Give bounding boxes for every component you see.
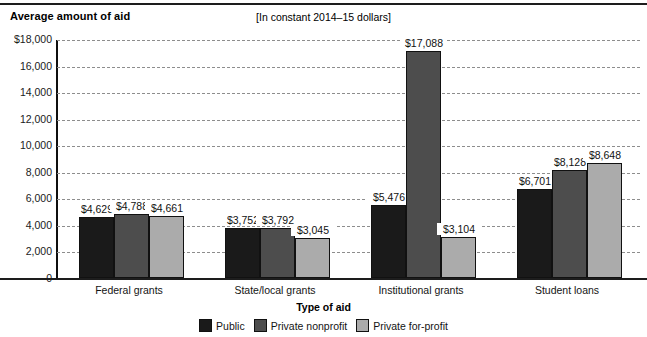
chart-figure: Average amount of aid [In constant 2014–…	[0, 0, 647, 337]
legend-item[interactable]: Public	[199, 319, 245, 332]
plot-area: $4,629$4,788$4,661$3,752$3,792$3,045$5,4…	[56, 40, 640, 278]
y-axis-tick-label: 10,000	[0, 139, 52, 151]
x-axis-category-label: Federal grants	[56, 284, 202, 296]
bar[interactable]	[79, 217, 114, 278]
x-axis-category-label: Student loans	[494, 284, 640, 296]
bar[interactable]	[587, 163, 622, 278]
bar-value-label: $3,045	[291, 224, 335, 236]
bottom-divider-rule	[0, 278, 647, 280]
chart-subtitle: [In constant 2014–15 dollars]	[0, 11, 647, 23]
bar-value-label: $6,701	[513, 175, 557, 187]
y-axis-line	[56, 40, 58, 279]
legend-swatch	[254, 319, 267, 332]
y-axis-tick-label: $18,000	[0, 33, 52, 45]
y-axis-tick-labels: $18,00016,00014,00012,00010,0008,0006,00…	[0, 40, 52, 279]
bar[interactable]	[114, 214, 149, 278]
bar-value-label: $17,088	[402, 37, 446, 49]
x-axis-category-label: Institutional grants	[348, 284, 494, 296]
legend-label: Private nonprofit	[271, 320, 347, 332]
bar[interactable]	[441, 237, 476, 278]
legend-label: Private for-profit	[373, 320, 448, 332]
y-axis-tick-label: 2,000	[0, 245, 52, 257]
chart-legend: PublicPrivate nonprofitPrivate for-profi…	[0, 319, 647, 332]
top-divider-rule	[0, 3, 647, 5]
x-axis-title: Type of aid	[0, 301, 647, 313]
y-axis-tick-label: 14,000	[0, 86, 52, 98]
x-axis-category-label: State/local grants	[202, 284, 348, 296]
bar-group: $3,752$3,792$3,045	[225, 39, 330, 278]
bar-group: $5,476$17,088$3,104	[371, 39, 476, 278]
bar[interactable]	[225, 228, 260, 278]
y-axis-tick-label: 6,000	[0, 192, 52, 204]
legend-swatch	[199, 319, 212, 332]
bar-value-label: $4,661	[145, 202, 189, 214]
legend-item[interactable]: Private for-profit	[356, 319, 448, 332]
bar[interactable]	[295, 238, 330, 278]
legend-swatch	[356, 319, 369, 332]
bar[interactable]	[517, 189, 552, 278]
legend-item[interactable]: Private nonprofit	[254, 319, 347, 332]
bar-value-label: $8,648	[583, 149, 627, 161]
bar[interactable]	[260, 228, 295, 278]
bar-value-label: $5,476	[367, 191, 411, 203]
bar-group: $6,701$8,128$8,648	[517, 39, 622, 278]
bar[interactable]	[552, 170, 587, 278]
y-axis-tick-label: 16,000	[0, 60, 52, 72]
bar[interactable]	[371, 205, 406, 278]
bar-group: $4,629$4,788$4,661	[79, 39, 184, 278]
bar[interactable]	[149, 216, 184, 278]
y-axis-tick-label: 12,000	[0, 113, 52, 125]
y-axis-tick-label: 4,000	[0, 219, 52, 231]
bar-value-label: $3,104	[437, 223, 481, 235]
legend-label: Public	[216, 320, 245, 332]
y-axis-tick-label: 8,000	[0, 166, 52, 178]
bar[interactable]	[406, 51, 441, 278]
